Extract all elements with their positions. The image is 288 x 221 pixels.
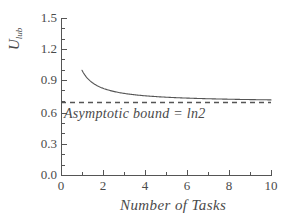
figure-canvas: 1.5 1.2 0.9 0.6 0.3 0.0 0 2 4 6 8 10 Ulu… [0,0,288,221]
plot-curves [0,0,288,221]
utilization-bound-curve [82,70,271,100]
